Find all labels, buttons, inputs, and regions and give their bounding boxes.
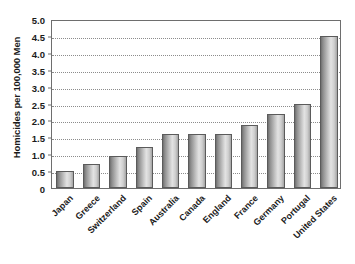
bar xyxy=(83,164,100,188)
x-tick-label: Spain xyxy=(130,193,154,217)
y-tick-label: 1.0 xyxy=(32,150,45,161)
bar-chart: Homicides per 100,000 Men 5.04.54.03.53.… xyxy=(0,0,355,264)
bars-layer xyxy=(52,21,340,188)
y-tick-label: 2.5 xyxy=(32,99,45,110)
y-axis-ticks: 5.04.54.03.53.02.52.01.51.00.50 xyxy=(0,0,51,210)
bar xyxy=(215,134,232,188)
bar xyxy=(136,147,153,188)
plot-area xyxy=(51,20,341,189)
y-tick-label: 0 xyxy=(40,184,45,195)
bar xyxy=(267,114,284,188)
y-tick-label: 4.5 xyxy=(32,31,45,42)
bar xyxy=(188,134,205,188)
bar xyxy=(294,104,311,189)
bar xyxy=(320,36,337,188)
x-axis-labels: JapanGreeceSwitzerlandSpainAustraliaCana… xyxy=(51,189,341,264)
y-tick-label: 1.5 xyxy=(32,133,45,144)
y-tick-label: 4.0 xyxy=(32,48,45,59)
y-tick-label: 0.5 xyxy=(32,167,45,178)
bar xyxy=(241,125,258,188)
y-tick-label: 5.0 xyxy=(32,15,45,26)
bar xyxy=(109,156,126,188)
bar xyxy=(162,134,179,188)
x-tick-label: Japan xyxy=(50,193,75,218)
y-tick-label: 3.0 xyxy=(32,82,45,93)
y-tick-label: 2.0 xyxy=(32,116,45,127)
y-tick-label: 3.5 xyxy=(32,65,45,76)
bar xyxy=(56,171,73,188)
